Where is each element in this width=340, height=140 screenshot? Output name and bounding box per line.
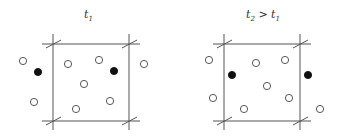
open-particle xyxy=(19,57,26,64)
panel-t1: t1 xyxy=(19,8,147,130)
open-particle xyxy=(285,94,292,101)
open-particle xyxy=(263,82,270,89)
simulation-box xyxy=(213,34,311,130)
open-particle xyxy=(205,56,212,63)
filled-particle xyxy=(304,71,311,78)
open-particle xyxy=(64,60,71,67)
open-particle xyxy=(80,80,87,87)
open-particle xyxy=(72,105,79,112)
filled-particle xyxy=(110,67,117,74)
panel-t2: t2 > t1 xyxy=(205,8,323,130)
open-particle xyxy=(209,94,216,101)
open-particle xyxy=(316,105,323,112)
filled-particle xyxy=(228,71,235,78)
simulation-box xyxy=(42,34,140,130)
particles xyxy=(19,56,147,112)
open-particle xyxy=(140,60,147,67)
open-particle xyxy=(240,105,247,112)
open-particle xyxy=(106,97,113,104)
periodic-boundary-diagram: t1 t2 > t1 xyxy=(0,0,340,140)
panel-t1-title: t1 xyxy=(84,8,93,23)
particles xyxy=(205,56,323,112)
open-particle xyxy=(30,98,37,105)
open-particle xyxy=(252,59,259,66)
panel-t2-title: t2 > t1 xyxy=(246,8,280,23)
open-particle xyxy=(95,56,102,63)
filled-particle xyxy=(34,68,41,75)
open-particle xyxy=(281,56,288,63)
